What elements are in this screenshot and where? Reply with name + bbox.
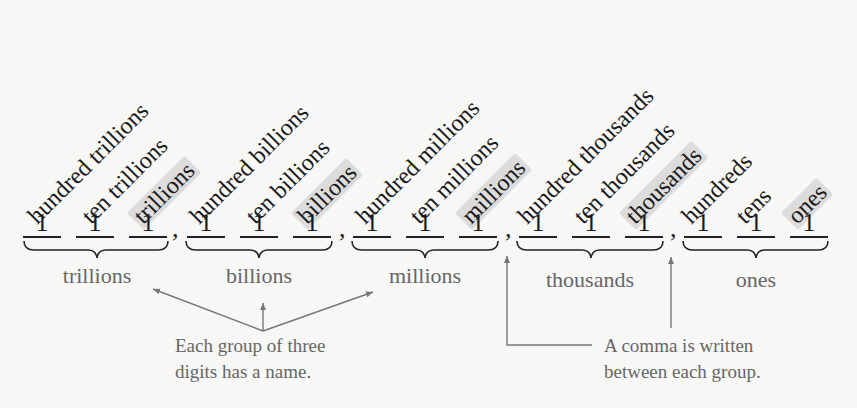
group-label-millions: millions bbox=[345, 264, 505, 288]
comma-note-line1: A comma is written bbox=[604, 334, 753, 358]
arrow-to-millions bbox=[263, 292, 373, 331]
place-value-diagram: hundred trillions ten trillions trillion… bbox=[0, 0, 857, 408]
group-label-billions: billions bbox=[179, 264, 339, 288]
group-name-note-line1: Each group of three bbox=[175, 334, 325, 358]
group-braces bbox=[24, 241, 828, 258]
group-name-note-line2: digits has a name. bbox=[175, 360, 311, 384]
arrow-to-trillions bbox=[153, 289, 263, 331]
group-label-ones: ones bbox=[676, 268, 836, 292]
group-label-thousands: thousands bbox=[510, 268, 670, 292]
group-label-trillions: trillions bbox=[17, 264, 177, 288]
comma-note-line2: between each group. bbox=[604, 360, 761, 384]
